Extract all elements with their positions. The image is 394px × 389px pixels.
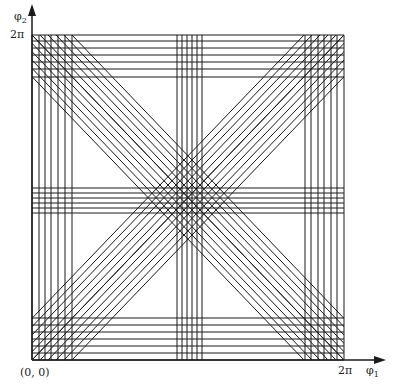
x-axis-subscript: 1	[374, 370, 379, 379]
y-axis-arrow-icon	[28, 4, 36, 16]
y-axis-subscript: 2	[22, 16, 27, 25]
y-max-label: 2π	[10, 28, 24, 41]
y-axis-label: φ2	[14, 10, 27, 25]
phase-torus-diagram	[0, 0, 394, 389]
origin-label: (0, 0)	[20, 366, 50, 379]
x-axis-arrow-icon	[374, 356, 386, 364]
x-axis-symbol: φ	[366, 364, 374, 377]
x-max-label: 2π	[338, 364, 352, 377]
y-axis-symbol: φ	[14, 10, 22, 23]
x-axis-label: φ1	[366, 364, 379, 379]
